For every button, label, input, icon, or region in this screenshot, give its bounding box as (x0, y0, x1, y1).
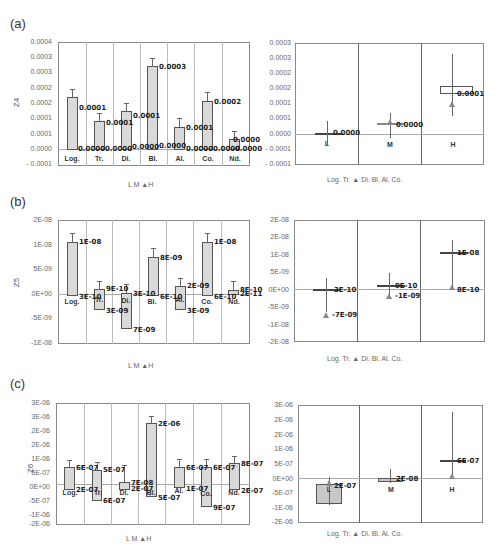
panel-label-a: (a) (10, 16, 26, 31)
y-tick: 0.0000 (4, 145, 52, 152)
value-label: 9E-10 (395, 282, 417, 290)
y-tick: 0E+00 (245, 475, 293, 482)
value-label: 8E-10 (457, 286, 479, 294)
x-category: Co. (191, 490, 221, 497)
value-label: 3E-09 (106, 307, 128, 315)
value-label: -7E-09 (332, 311, 357, 319)
panel-label-c: (c) (10, 376, 25, 391)
value-label: 0.0001 (79, 104, 106, 112)
value-label: 1E-08 (79, 238, 101, 246)
x-category: Di. (111, 155, 141, 162)
value-label: -1E-09 (395, 292, 420, 300)
chart-legend: Log. Tr. ▲ Di. Bl. Al. Co. (327, 176, 402, 183)
y-tick: -1E-08 (4, 339, 52, 346)
y-tick: -1E-06 (2, 511, 50, 518)
y-tick: 1E-06 (245, 445, 293, 452)
y-tick: 2E-06 (245, 431, 293, 438)
y-tick: -5E-09 (4, 314, 52, 321)
chart-legend: L M ▲H (128, 181, 153, 188)
x-category: Al. (165, 296, 195, 303)
y-tick: 0.0003 (243, 54, 291, 61)
y-tick: 0.0001 (4, 130, 52, 137)
y-tick: 5E-09 (241, 268, 289, 275)
y-tick: 0E+00 (241, 286, 289, 293)
value-label: 0.0000 (186, 145, 213, 153)
y-tick: 0.0002 (243, 69, 291, 76)
y-tick: 1E-08 (4, 241, 52, 248)
y-tick: -2E-08 (241, 338, 289, 345)
x-category: Al. (165, 155, 195, 162)
y-tick: 0.0001 (243, 114, 291, 121)
x-category: Di. (109, 489, 139, 496)
value-label: 0.0000 (333, 129, 360, 137)
x-category: Co. (192, 298, 222, 305)
y-tick: 2E-08 (241, 233, 289, 240)
y-tick: 0.0001 (4, 114, 52, 121)
value-label: 0.0002 (214, 98, 241, 106)
y-tick: 3E-06 (2, 413, 50, 420)
value-label: 2E-09 (187, 282, 209, 290)
y-tick: 0.0001 (243, 99, 291, 106)
y-tick: - 0.0001 (243, 145, 291, 152)
value-label: 0.0000 (396, 121, 423, 129)
value-label: 6E-07 (103, 497, 125, 505)
value-label: 6E-07 (457, 457, 479, 465)
chart-legend: Log. Tr. ▲ Di. Bl. Al. Co. (327, 355, 402, 362)
value-label: 0.0000 (78, 145, 105, 153)
x-category: H (438, 141, 468, 148)
value-label: 2E-06 (158, 420, 180, 428)
y-tick: -5E-07 (2, 497, 50, 504)
value-label: 9E-10 (106, 285, 128, 293)
y-tick: 2E-08 (241, 216, 289, 223)
value-label: 0.0001 (133, 112, 160, 120)
y-tick: 0.0000 (243, 130, 291, 137)
y-tick: -1E-08 (241, 321, 289, 328)
bar-al (174, 467, 185, 488)
y-tick: 0.0004 (4, 38, 52, 45)
y-axis-label: Z6 (26, 464, 35, 473)
x-category: M (375, 141, 405, 148)
y-tick: -5E-09 (241, 303, 289, 310)
y-tick: 0.0003 (4, 68, 52, 75)
y-tick: 2E-08 (4, 216, 52, 223)
value-label: 0.0000 (105, 145, 132, 153)
x-category: M (376, 486, 406, 493)
y-tick: -5E-07 (245, 489, 293, 496)
bar-log (67, 242, 78, 296)
value-label: 0.0000 (159, 142, 186, 150)
value-label: 0.0001 (106, 119, 133, 127)
y-axis-label: Z5 (12, 278, 21, 287)
value-label: 0.0001 (457, 90, 484, 98)
value-label: 8E-09 (160, 254, 182, 262)
y-tick: 1E-06 (2, 455, 50, 462)
x-category: L (314, 486, 344, 493)
y-tick: 2E-06 (2, 427, 50, 434)
y-tick: - 0.0001 (243, 160, 291, 167)
bar-log (67, 97, 78, 150)
value-label: 1E-08 (457, 249, 479, 257)
chart-legend: L M ▲H (126, 535, 151, 542)
x-category: Log. (57, 155, 87, 162)
value-label: 7E-09 (133, 326, 155, 334)
x-category: H (437, 486, 467, 493)
x-category: Al. (164, 487, 194, 494)
y-tick: 3E-06 (245, 401, 293, 408)
y-tick: 2E-06 (245, 416, 293, 423)
y-tick: 0E+00 (4, 290, 52, 297)
chart-legend: L M ▲H (128, 362, 153, 369)
x-category: Tr. (84, 155, 114, 162)
y-tick: 3E-06 (2, 399, 50, 406)
y-tick: 0.0003 (4, 53, 52, 60)
value-label: 3E-09 (187, 307, 209, 315)
y-tick: 0E+00 (2, 483, 50, 490)
value-label: 9E-07 (213, 504, 235, 512)
y-tick: -2E-06 (2, 520, 50, 527)
value-label: 6E-07 (186, 464, 208, 472)
value-label: 6E-07 (76, 464, 98, 472)
x-category: Bl. (138, 155, 168, 162)
y-tick: - 0.0001 (4, 160, 52, 167)
value-label: 2E-08 (396, 475, 418, 483)
x-category: Bl. (136, 489, 166, 496)
x-category: Tr. (84, 296, 114, 303)
y-tick: 2E-06 (2, 441, 50, 448)
